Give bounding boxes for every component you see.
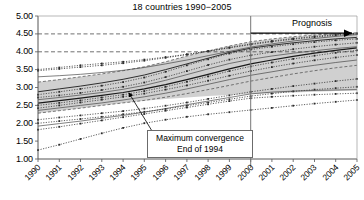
y-tick-label: 4.50 xyxy=(1,29,33,38)
y-tick-label: 3.00 xyxy=(1,83,33,92)
y-tick-label: 3.50 xyxy=(1,65,33,74)
y-tick-label: 4.00 xyxy=(1,47,33,56)
y-tick-label: 2.50 xyxy=(1,101,33,110)
y-tick-label: 1.00 xyxy=(1,155,33,164)
annotation-line-1: Maximum convergence xyxy=(156,133,244,144)
chart-figure: 18 countries 1990−2005 1.001.502.002.503… xyxy=(0,0,364,200)
shaded-envelope-band xyxy=(38,33,357,113)
maximum-convergence-annotation: Maximum convergence End of 1994 xyxy=(147,130,253,158)
annotation-line-2: End of 1994 xyxy=(177,144,223,155)
prognosis-annotation: Prognosis xyxy=(292,18,332,28)
y-tick-label: 1.50 xyxy=(1,137,33,146)
y-tick-label: 5.00 xyxy=(1,12,33,21)
y-tick-label: 2.00 xyxy=(1,119,33,128)
